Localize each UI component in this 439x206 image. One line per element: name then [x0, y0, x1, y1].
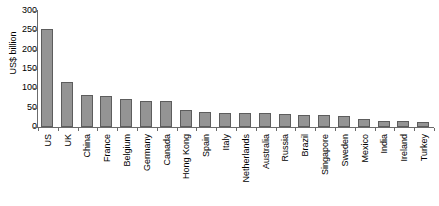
bar-slot [315, 0, 335, 128]
x-label-slot: Belgium [117, 132, 137, 206]
x-tick-mark [414, 128, 415, 131]
x-label-slot: Sweden [335, 132, 355, 206]
x-tick-mark [137, 128, 138, 131]
x-tick-label: China [82, 134, 92, 158]
bar [239, 113, 251, 127]
x-tick-label: Russia [280, 134, 290, 162]
x-tick-mark [196, 128, 197, 131]
bar [298, 115, 310, 127]
x-tick-label: India [379, 134, 389, 154]
bar [140, 101, 152, 127]
bar-slot [414, 0, 434, 128]
x-tick-mark [315, 128, 316, 131]
x-tick-mark [276, 128, 277, 131]
bar [219, 113, 231, 127]
x-tick-label: Mexico [360, 134, 370, 163]
x-label-slot: Spain [196, 132, 216, 206]
x-tick-mark [256, 128, 257, 131]
x-label-slot: Australia [256, 132, 276, 206]
x-tick-mark [375, 128, 376, 131]
bar-slot [276, 0, 296, 128]
x-label-slot: Germany [137, 132, 157, 206]
x-tick-label: Germany [142, 134, 152, 171]
x-tick-mark [117, 128, 118, 131]
bar [180, 110, 192, 127]
x-tick-label: Hong Kong [181, 134, 191, 179]
x-label-slot: Russia [276, 132, 296, 206]
x-label-slot: Turkey [414, 132, 434, 206]
x-tick-mark [58, 128, 59, 131]
x-tick-label: Brazil [300, 134, 310, 157]
x-tick-mark [236, 128, 237, 131]
x-tick-mark [157, 128, 158, 131]
x-tick-label: US [43, 134, 53, 147]
bar-slot [78, 0, 98, 128]
bar-slot [97, 0, 117, 128]
bar-slot [256, 0, 276, 128]
x-label-slot: Singapore [315, 132, 335, 206]
x-tick-label: Ireland [399, 134, 409, 162]
bar-chart: US$ billion 050100150200250300 USUKChina… [0, 0, 439, 206]
x-tick-mark [38, 128, 39, 131]
bar-slot [137, 0, 157, 128]
x-label-slot: France [97, 132, 117, 206]
bar [160, 101, 172, 127]
x-tick-label: UK [63, 134, 73, 147]
bar [358, 119, 370, 127]
x-tick-label: Netherlands [241, 134, 251, 183]
bar-slot [117, 0, 137, 128]
y-axis-ticks: 050100150200250300 [0, 0, 37, 206]
x-tick-label: Italy [221, 134, 231, 151]
x-label-slot: Hong Kong [177, 132, 197, 206]
x-tick-label: Canada [162, 134, 172, 166]
x-tick-label: Turkey [419, 134, 429, 161]
bar-series [38, 0, 434, 128]
x-tick-label: Spain [201, 134, 211, 157]
x-tick-mark [216, 128, 217, 131]
bar-slot [177, 0, 197, 128]
x-tick-mark [78, 128, 79, 131]
x-label-slot: Canada [157, 132, 177, 206]
x-label-slot: India [375, 132, 395, 206]
x-tick-mark [177, 128, 178, 131]
bar [259, 113, 271, 127]
bar [100, 96, 112, 127]
bar [41, 29, 53, 127]
x-axis-labels: USUKChinaFranceBelgiumGermanyCanadaHong … [38, 132, 434, 206]
bar [338, 116, 350, 127]
x-tick-mark [394, 128, 395, 131]
bar-slot [394, 0, 414, 128]
bar-slot [38, 0, 58, 128]
bar [81, 95, 93, 127]
x-label-slot: Ireland [394, 132, 414, 206]
x-tick-mark [295, 128, 296, 131]
bar [61, 82, 73, 127]
bar-slot [58, 0, 78, 128]
bar-slot [335, 0, 355, 128]
x-tick-label: Singapore [320, 134, 330, 175]
bar [318, 115, 330, 127]
x-tick-mark [434, 128, 435, 131]
bar-slot [355, 0, 375, 128]
x-tick-mark [355, 128, 356, 131]
bar [279, 114, 291, 127]
bar-slot [375, 0, 395, 128]
x-label-slot: Mexico [355, 132, 375, 206]
x-tick-label: France [102, 134, 112, 162]
x-label-slot: Brazil [295, 132, 315, 206]
x-label-slot: US [38, 132, 58, 206]
x-tick-mark [335, 128, 336, 131]
x-label-slot: Netherlands [236, 132, 256, 206]
x-label-slot: China [78, 132, 98, 206]
bar-slot [157, 0, 177, 128]
x-tick-label: Australia [261, 134, 271, 169]
bar-slot [236, 0, 256, 128]
bar-slot [216, 0, 236, 128]
x-tick-label: Sweden [340, 134, 350, 167]
bar-slot [196, 0, 216, 128]
x-tick-mark [97, 128, 98, 131]
bar [120, 99, 132, 127]
bar-slot [295, 0, 315, 128]
bar [417, 122, 429, 127]
x-label-slot: Italy [216, 132, 236, 206]
